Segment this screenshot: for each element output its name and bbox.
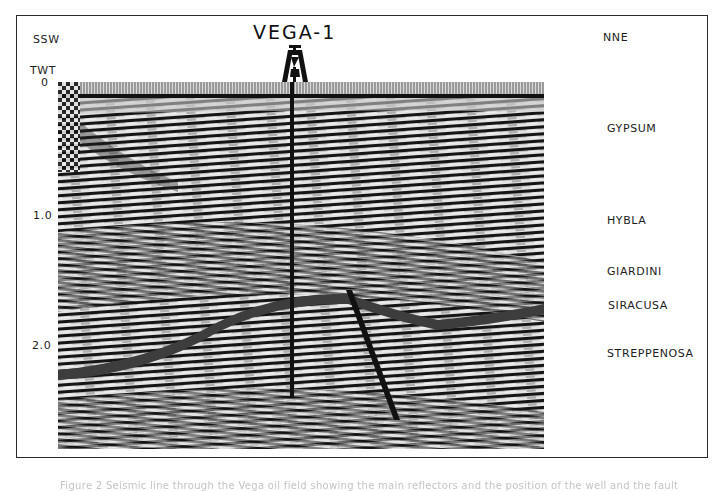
well-trajectory: [290, 82, 294, 398]
axis-tick-0: 0: [41, 76, 49, 89]
axis-tick-2: 2.0: [32, 339, 51, 352]
axis-tick-1: 1.0: [33, 209, 52, 222]
horizon-label-giardini: GIARDINI: [607, 265, 662, 278]
horizon-label-gypsum: GYPSUM: [607, 122, 656, 135]
figure-caption: Figure 2 Seismic line through the Vega o…: [60, 480, 720, 491]
direction-label-ssw: SSW: [33, 33, 60, 46]
well-title: VEGA-1: [253, 21, 336, 43]
horizon-label-hybla: HYBLA: [607, 214, 646, 227]
oil-derrick-icon: [282, 45, 308, 83]
seismic-section: [58, 82, 544, 449]
horizon-label-streppenosa: STREPPENOSA: [607, 347, 694, 360]
direction-label-nne: NNE: [603, 31, 628, 44]
horizon-label-siracusa: SIRACUSA: [608, 299, 668, 312]
